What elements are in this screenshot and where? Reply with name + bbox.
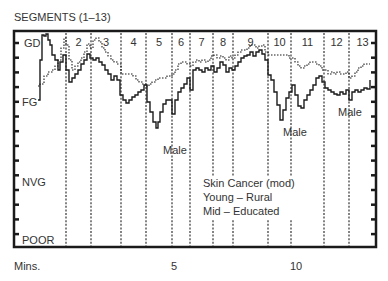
segment-number: 2	[75, 36, 81, 48]
segment-number: 10	[273, 36, 285, 48]
y-level-nvg: NVG	[22, 176, 46, 188]
segment-number: 5	[156, 36, 162, 48]
segment-number: 12	[330, 36, 342, 48]
segment-number: 13	[356, 36, 368, 48]
segment-number: 9	[247, 36, 253, 48]
data-series	[38, 34, 370, 128]
annotation-male-seg5: Male	[163, 144, 187, 156]
segment-number: 7	[198, 36, 204, 48]
segment-number: 6	[178, 36, 184, 48]
segment-number: 4	[130, 36, 136, 48]
annotation-male-seg10: Male	[283, 126, 307, 138]
segment-number: 3	[103, 36, 109, 48]
annotation-male-seg12: Male	[338, 106, 362, 118]
series-male	[38, 34, 370, 128]
segment-number: 8	[220, 36, 226, 48]
note-line-2: Young – Rural	[203, 191, 272, 203]
segment-number: 11	[302, 36, 313, 48]
chart-plot: 2345678910111213 GD FG NVG POOR Male Mal…	[0, 0, 388, 281]
segment-labels: 2345678910111213	[75, 36, 368, 48]
y-level-fg: FG	[22, 96, 37, 108]
note-line-1: Skin Cancer (mod)	[203, 177, 295, 189]
y-level-gd: GD	[24, 37, 41, 49]
plot-frame	[14, 31, 376, 247]
note-line-3: Mid – Educated	[203, 205, 279, 217]
y-level-poor: POOR	[22, 234, 54, 246]
